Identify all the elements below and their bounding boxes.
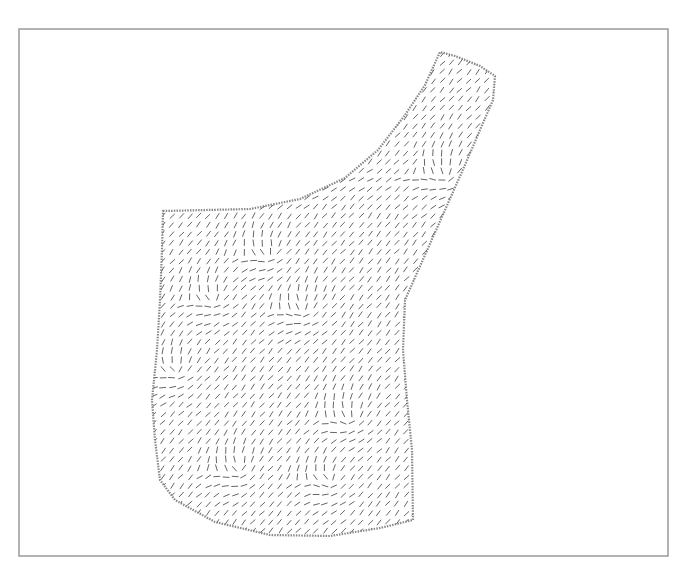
quiver-plot [0, 0, 683, 569]
vector-field [141, 42, 499, 543]
